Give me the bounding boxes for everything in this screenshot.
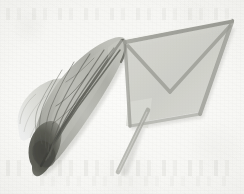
net-frame-illustration: [104, 6, 244, 186]
specimen-scan-figure: Insect wing specimen and triangular net …: [0, 0, 244, 194]
triangular-net-specimen: [104, 6, 244, 186]
